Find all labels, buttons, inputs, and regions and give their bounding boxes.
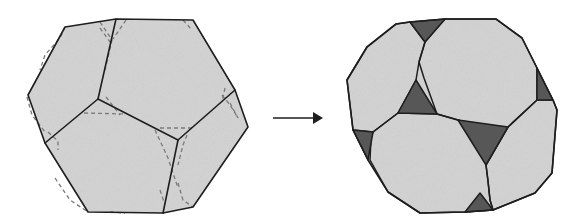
original-polyhedron <box>27 19 248 213</box>
arrow-head-icon <box>313 112 323 124</box>
truncation-diagram <box>0 0 579 223</box>
truncated-body <box>347 19 557 213</box>
polyhedron-body <box>28 19 248 213</box>
truncated-polyhedron <box>347 19 557 213</box>
transformation-arrow <box>273 112 323 124</box>
